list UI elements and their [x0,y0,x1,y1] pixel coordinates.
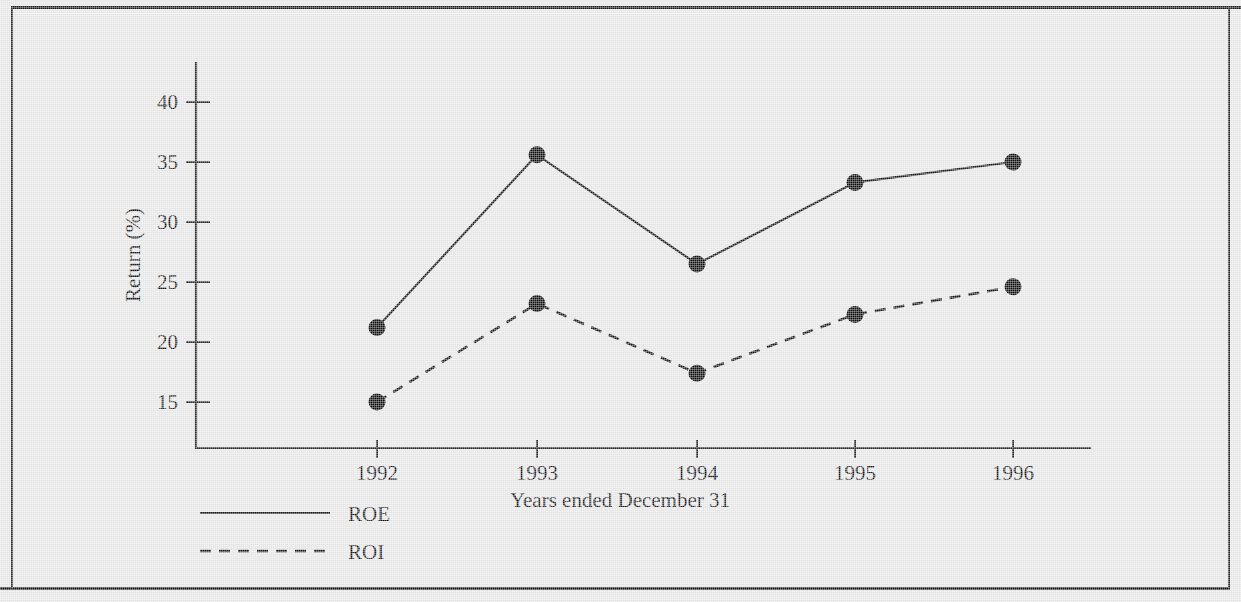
chart-svg: 40 35 30 25 20 15 Return (%) 1992 1993 [0,0,1241,602]
x-tick-label-1992: 1992 [356,461,398,485]
data-point-roe-1993 [529,146,546,163]
y-tick-label-15: 15 [157,390,178,414]
data-point-roi-1995 [847,306,864,323]
data-series-layer [369,146,1022,410]
data-point-roe-1994 [689,256,706,273]
legend-label-roe: ROE [348,502,390,526]
chart-axes [196,63,1090,448]
y-tick-label-35: 35 [157,150,178,174]
x-axis-title: Years ended December 31 [510,488,730,512]
y-axis-title: Return (%) [121,208,145,302]
data-point-roi-1992 [369,394,386,411]
y-tick-label-40: 40 [157,90,178,114]
line-chart-figure: 40 35 30 25 20 15 Return (%) 1992 1993 [0,0,1241,602]
y-tick-label-20: 20 [157,330,178,354]
x-axis-tick-labels: 1992 1993 1994 1995 1996 [356,461,1034,485]
y-axis-ticks [186,102,210,402]
legend-label-roi: ROI [348,540,384,564]
data-point-roi-1996 [1005,278,1022,295]
data-point-roe-1996 [1005,154,1022,171]
y-tick-label-30: 30 [157,210,178,234]
data-point-roe-1992 [369,319,386,336]
series-line-roe [377,155,1013,328]
y-tick-label-25: 25 [157,270,178,294]
chart-legend: ROE ROI [200,502,390,564]
series-line-roi [377,287,1013,402]
data-point-roi-1994 [689,365,706,382]
data-point-roe-1995 [847,174,864,191]
x-tick-label-1994: 1994 [676,461,719,485]
x-tick-label-1993: 1993 [516,461,558,485]
x-tick-label-1996: 1996 [992,461,1034,485]
y-axis-tick-labels: 40 35 30 25 20 15 [157,90,178,414]
figure-page: 40 35 30 25 20 15 Return (%) 1992 1993 [0,0,1241,602]
x-tick-label-1995: 1995 [834,461,876,485]
data-point-roi-1993 [529,295,546,312]
